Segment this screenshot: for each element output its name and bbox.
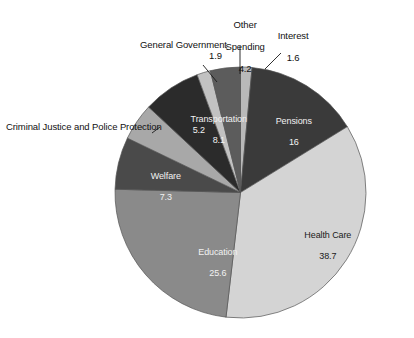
label-other-spending-line1: Other [233,19,256,30]
label-other-spending-value: 4.2 [239,63,252,74]
label-other-spending-line2: Spending [225,41,264,52]
label-interest-name: Interest [278,30,309,41]
pie-slice-education[interactable] [115,189,241,317]
label-interest: Interest 1.6 [262,19,314,74]
label-criminal-justice: Criminal Justice and Police Protection [6,121,150,132]
label-interest-value: 1.6 [287,52,300,63]
chart-canvas: General Government 1.9 Other Spending 4.… [0,0,414,338]
pie-slice-group [115,67,366,318]
label-criminal-justice-name: Criminal Justice and Police Protection [6,121,162,132]
